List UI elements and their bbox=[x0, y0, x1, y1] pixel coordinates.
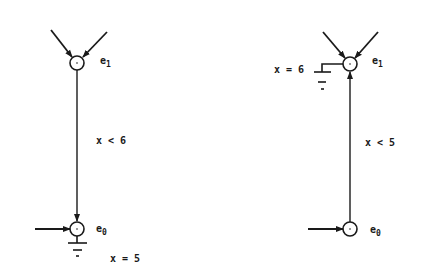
incoming-arrow-left-top-a bbox=[51, 30, 72, 57]
node-label-subscript: 0 bbox=[376, 229, 381, 238]
node-label-right-e1: e1 bbox=[372, 56, 383, 66]
node-label-right-e0: e0 bbox=[370, 225, 381, 235]
incoming-arrow-right-top-a bbox=[323, 32, 345, 58]
ground-label-right: x = 6 bbox=[274, 65, 304, 75]
incoming-arrow-left-top-b bbox=[83, 32, 107, 57]
node-label-subscript: 1 bbox=[106, 60, 111, 69]
ground-label-left: x = 5 bbox=[110, 254, 140, 264]
ground-symbol-right bbox=[314, 64, 343, 89]
diagram-canvas: e1 x < 6 e0 x = 5 e1 x = 6 x < 5 e0 bbox=[0, 0, 423, 276]
node-label-left-e1: e1 bbox=[100, 56, 111, 66]
node-label-subscript: 0 bbox=[102, 228, 107, 237]
node-label-left-e0: e0 bbox=[96, 224, 107, 234]
edge-label-left: x < 6 bbox=[96, 136, 126, 146]
node-label-subscript: 1 bbox=[378, 60, 383, 69]
edge-label-right: x < 5 bbox=[365, 138, 395, 148]
right-diagram bbox=[308, 32, 378, 236]
diagram-graphics bbox=[0, 0, 423, 276]
ground-symbol-left bbox=[68, 236, 87, 256]
